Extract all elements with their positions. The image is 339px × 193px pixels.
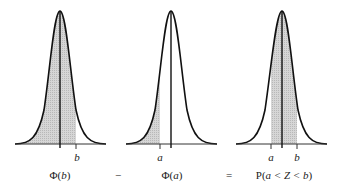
panel-prob-a-b — [236, 11, 327, 149]
caption-phi-b: Φ(b) — [50, 170, 71, 181]
caption-prob-a-b: P(a < Z < b) — [256, 170, 312, 181]
tick-label-b: b — [74, 152, 80, 163]
panel-phi-a — [126, 11, 217, 149]
minus-operator: − — [115, 170, 121, 181]
tick-label-b: b — [294, 152, 300, 163]
equals-operator: = — [226, 170, 232, 181]
normal-distribution-diagram — [0, 0, 339, 193]
tick-label-a: a — [268, 152, 274, 163]
caption-phi-a: Φ(a) — [162, 170, 183, 181]
panel-phi-b — [15, 11, 106, 149]
tick-label-a: a — [157, 152, 163, 163]
